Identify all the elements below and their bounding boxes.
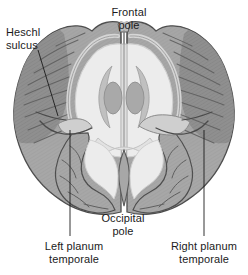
label-right-planum-temporale: Right planum temporale [162,240,246,265]
left-basal-ganglia [104,82,122,114]
label-frontal-pole: Frontal pole [98,6,160,31]
brain-section-figure: Heschl sulcus Frontal pole Occipital pol… [0,0,248,275]
label-occipital-pole: Occipital pole [92,212,154,237]
label-left-planum-temporale: Left planum temporale [32,240,116,265]
right-basal-ganglia [126,82,144,114]
label-heschl-sulcus: Heschl sulcus [6,26,40,51]
